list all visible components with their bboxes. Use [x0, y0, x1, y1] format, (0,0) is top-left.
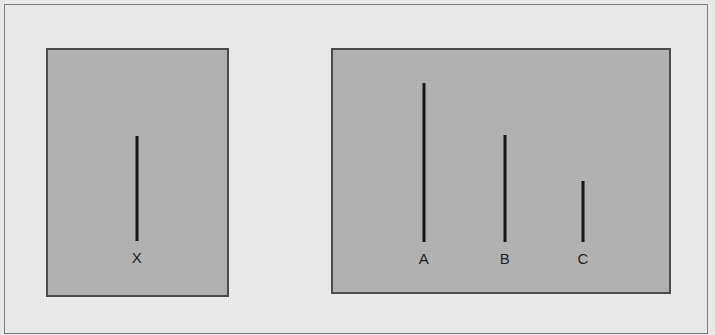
line-b [504, 135, 507, 242]
line-x [136, 136, 139, 241]
line-c [582, 181, 585, 242]
line-label-b: B [500, 251, 510, 266]
line-label-x: X [132, 250, 142, 265]
line-label-a: A [419, 251, 429, 266]
line-a [423, 83, 426, 242]
line-label-c: C [577, 251, 588, 266]
figure-canvas: X A B C [0, 0, 715, 335]
